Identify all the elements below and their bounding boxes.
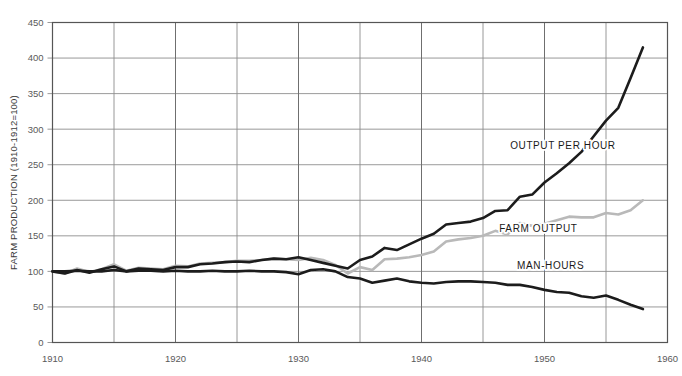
y-tick-label: 100 (28, 266, 44, 277)
x-tick-label: 1930 (288, 353, 309, 364)
chart-background (0, 0, 682, 376)
chart-canvas: 050100150200250300350400450 191019201930… (0, 0, 682, 376)
y-tick-label: 450 (28, 17, 44, 28)
y-tick-label: 400 (28, 52, 44, 63)
y-tick-label: 300 (28, 124, 44, 135)
x-tick-label: 1950 (534, 353, 555, 364)
y-tick-label: 50 (33, 301, 44, 312)
y-tick-label: 350 (28, 88, 44, 99)
y-tick-label: 150 (28, 230, 44, 241)
series-label: OUTPUT PER HOUR (510, 140, 616, 151)
y-tick-label: 250 (28, 159, 44, 170)
series-label: MAN-HOURS (517, 260, 584, 271)
x-tick-label: 1910 (42, 353, 63, 364)
x-tick-label: 1960 (657, 353, 678, 364)
series-label: FARM OUTPUT (499, 223, 577, 234)
x-tick-label: 1920 (165, 353, 186, 364)
x-tick-label: 1940 (411, 353, 432, 364)
farm-production-chart: 050100150200250300350400450 191019201930… (0, 0, 682, 376)
y-axis-title: FARM PRODUCTION (1910-1912=100) (8, 95, 19, 270)
y-axis-title-text: FARM PRODUCTION (1910-1912=100) (8, 95, 19, 270)
y-tick-label: 200 (28, 195, 44, 206)
y-tick-label: 0 (38, 337, 43, 348)
